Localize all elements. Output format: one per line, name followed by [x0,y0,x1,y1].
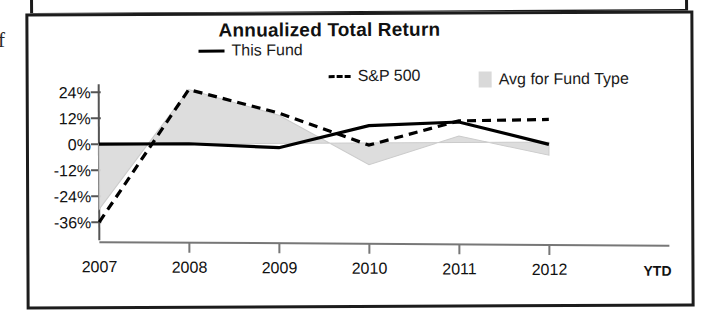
series-area-avg-for-fund-type [99,88,550,209]
y-axis-tick-label: 12% [59,110,91,127]
x-axis-tick-label: 2010 [352,260,388,277]
x-axis-tick-label: 2008 [172,259,208,276]
x-axis-tick-labels: 200720082009201020112012 [82,256,568,280]
y-axis-tick-label: -36% [54,214,91,231]
y-axis-tick-label: 24% [59,84,91,101]
x-axis-tick-label: 2011 [442,260,477,277]
x-axis-line [99,240,669,248]
series-line-sp500 [99,88,550,222]
x-axis-tick-label: 2007 [82,258,118,275]
y-axis-tick-label: 0% [68,136,91,153]
chart-panel: Annualized Total Return This Fund S&P 50… [25,11,694,310]
x-axis-ytd-label: YTD [643,263,671,279]
chart-plot-area: 24%12%0%-12%-24%-36% 2007200820092010201… [28,14,697,313]
y-axis-tick-labels: 24%12%0%-12%-24%-36% [53,84,91,231]
y-axis-tick-label: -12% [54,162,91,179]
x-axis-tick-label: 2009 [262,259,298,276]
x-axis-tick-label: 2012 [532,261,568,278]
y-axis-tick-label: -24% [54,188,91,205]
stray-glyph-text: f [0,28,5,53]
